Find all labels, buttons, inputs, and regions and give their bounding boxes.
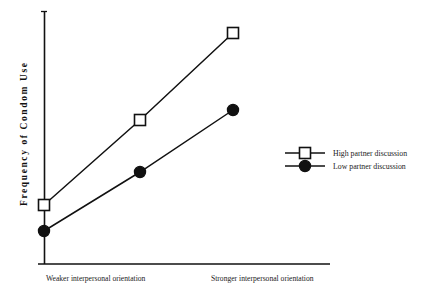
open-square-icon [300, 148, 311, 159]
data-point-high-2 [135, 115, 146, 126]
y-axis-label: Frequency of Condom Use [19, 61, 29, 206]
legend-label-high: High partner discussion [333, 149, 407, 158]
data-point-low-2 [134, 166, 145, 177]
data-point-low-1 [38, 225, 49, 236]
legend-label-low: Low partner discussion [333, 162, 406, 171]
filled-circle-icon [299, 160, 310, 171]
x-tick-label-left: Weaker interpersonal orientation [46, 274, 146, 283]
data-point-low-3 [227, 104, 238, 115]
chart-axes [38, 11, 330, 264]
x-tick-label-right: Stronger interpersonal orientation [211, 274, 314, 283]
legend-entry-high-partner-discussion[interactable]: High partner discussion [285, 148, 407, 159]
chart-figure: Frequency of Condom Use Weaker interpers… [0, 0, 422, 296]
legend-entry-low-partner-discussion[interactable]: Low partner discussion [285, 160, 406, 171]
data-point-high-3 [228, 28, 239, 39]
chart-legend: High partner discussion Low partner disc… [285, 148, 407, 172]
series-high-partner-discussion [39, 28, 239, 211]
line-chart-canvas: Frequency of Condom Use Weaker interpers… [0, 0, 422, 296]
data-point-high-1 [39, 200, 50, 211]
